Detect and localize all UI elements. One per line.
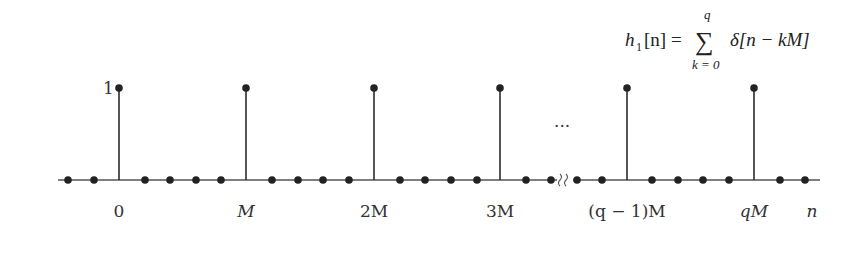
- tick-label-2M: 2M: [360, 201, 388, 221]
- equation-lhs-arg: [n] =: [644, 29, 682, 50]
- equation-lhs: h: [625, 29, 635, 50]
- x-axis-label: n: [807, 201, 818, 221]
- tick-label-M: M: [236, 201, 255, 221]
- tick-label-0: 0: [114, 201, 125, 221]
- sum-lower-limit: k = 0: [692, 57, 720, 72]
- ellipsis-label: ···: [554, 116, 570, 136]
- impulse-heads: [115, 84, 758, 92]
- tick-label-q-minus-1-M: (q − 1)M: [588, 201, 665, 221]
- axis-break-icon: [557, 172, 573, 188]
- equation-lhs-subscript: 1: [636, 40, 642, 54]
- stem-plot-figure: 1 ··· 0 M 2M 3M (q − 1)M qM n h 1 [n] = …: [0, 0, 864, 257]
- sum-symbol: ∑: [695, 27, 714, 56]
- tick-label-3M: 3M: [486, 201, 514, 221]
- tick-label-qM: qM: [740, 201, 769, 221]
- equation-summand: δ[n − kM]: [730, 29, 810, 50]
- amplitude-label: 1: [103, 78, 114, 98]
- equation: h 1 [n] = ∑ q k = 0 δ[n − kM]: [625, 7, 810, 72]
- sum-upper-limit: q: [704, 7, 711, 22]
- impulse-stems: [119, 88, 754, 180]
